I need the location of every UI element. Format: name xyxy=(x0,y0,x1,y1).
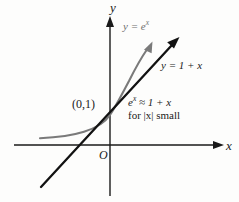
tangent-line-label: y = 1 + x xyxy=(161,60,202,71)
exponential-tangent-line-figure: y x O y = ex y = 1 + x (0,1) ex ≈ 1 + x … xyxy=(0,0,239,202)
y-axis-arrow-icon xyxy=(106,16,114,27)
x-axis xyxy=(14,141,224,149)
y-axis-label: y xyxy=(110,1,116,14)
x-axis-label: x xyxy=(226,139,232,152)
graph-canvas xyxy=(0,0,239,202)
approximation-condition-label: for |x| small xyxy=(128,110,180,121)
approximation-rhs: ≈ 1 + x xyxy=(136,96,171,108)
exponential-curve xyxy=(40,42,153,139)
y-intercept-label: (0,1) xyxy=(72,98,95,110)
x-axis-arrow-icon xyxy=(213,141,224,149)
y-axis xyxy=(106,16,114,196)
tangent-line-label-text: y = 1 + x xyxy=(161,59,202,71)
exponential-curve-label-text: y = e xyxy=(123,20,146,32)
approximation-label: ex ≈ 1 + x xyxy=(128,95,171,108)
exponential-curve-label-exponent: x xyxy=(146,18,149,27)
exponential-curve-path xyxy=(40,50,147,139)
origin-label: O xyxy=(99,149,108,161)
exponential-curve-label: y = ex xyxy=(123,19,149,32)
